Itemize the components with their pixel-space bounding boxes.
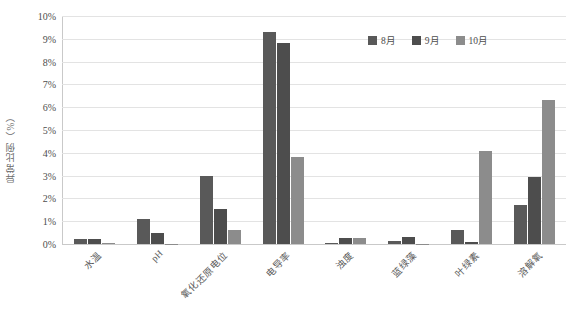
x-axis-tick: 氧化还原电位 xyxy=(189,246,252,316)
bar-group xyxy=(377,16,440,244)
y-axis-tick: 2% xyxy=(43,193,56,204)
bars xyxy=(63,16,126,244)
bar-group xyxy=(440,16,503,244)
bar[interactable] xyxy=(325,243,338,244)
bar[interactable] xyxy=(479,151,492,244)
bar-group xyxy=(252,16,315,244)
x-axis-tick: 溶解氧 xyxy=(504,246,567,316)
bar[interactable] xyxy=(74,239,87,244)
x-axis-tick-label: 蓝绿藻 xyxy=(388,248,420,280)
bars xyxy=(126,16,189,244)
y-axis-tick: 4% xyxy=(43,147,56,158)
x-axis-tick-label: 水温 xyxy=(80,248,104,272)
bar-group xyxy=(126,16,189,244)
x-axis-tick-label: 浊度 xyxy=(332,248,356,272)
bar[interactable] xyxy=(388,241,401,244)
bar[interactable] xyxy=(88,239,101,244)
gridline xyxy=(62,244,566,245)
bars xyxy=(440,16,503,244)
bar[interactable] xyxy=(277,43,290,244)
bar[interactable] xyxy=(214,209,227,244)
bars xyxy=(503,16,566,244)
bar[interactable] xyxy=(528,177,541,244)
y-axis-tick: 8% xyxy=(43,56,56,67)
bar[interactable] xyxy=(102,243,115,244)
bar[interactable] xyxy=(228,230,241,244)
y-axis-tick: 0% xyxy=(43,239,56,250)
bar[interactable] xyxy=(137,219,150,244)
y-axis-tick: 1% xyxy=(43,216,56,227)
bar[interactable] xyxy=(402,237,415,244)
bar-group xyxy=(63,16,126,244)
bar-group xyxy=(503,16,566,244)
bar[interactable] xyxy=(465,242,478,244)
y-axis-title: 异常比例（%） xyxy=(2,72,20,222)
bars xyxy=(315,16,378,244)
bar[interactable] xyxy=(451,230,464,244)
x-axis-tick-label: 溶解氧 xyxy=(514,248,546,280)
x-axis-tick: pH xyxy=(126,246,189,316)
legend-label: 10月 xyxy=(469,33,489,47)
y-axis-tick: 3% xyxy=(43,170,56,181)
bar-chart: 异常比例（%） 10%9%8%7%6%5%4%3%2%1%0% 8月9月10月 … xyxy=(0,0,580,317)
x-axis-tick-label: pH xyxy=(149,248,165,264)
bar[interactable] xyxy=(263,32,276,244)
bars xyxy=(252,16,315,244)
bar[interactable] xyxy=(339,238,352,244)
x-axis-tick: 蓝绿藻 xyxy=(378,246,441,316)
plot-area xyxy=(62,16,566,244)
x-axis-tick: 叶绿素 xyxy=(441,246,504,316)
legend-item[interactable]: 10月 xyxy=(456,33,489,47)
bar[interactable] xyxy=(353,238,366,244)
x-axis-tick: 浊度 xyxy=(315,246,378,316)
x-axis-tick-labels: 水温pH氧化还原电位电导率浊度蓝绿藻叶绿素溶解氧 xyxy=(63,246,567,316)
y-axis-tick: 7% xyxy=(43,79,56,90)
x-axis-tick-label: 电导率 xyxy=(262,248,294,280)
legend: 8月9月10月 xyxy=(368,33,488,47)
bar[interactable] xyxy=(151,233,164,244)
y-axis-tick: 9% xyxy=(43,33,56,44)
y-axis-tick: 6% xyxy=(43,102,56,113)
y-axis-tick-labels: 10%9%8%7%6%5%4%3%2%1%0% xyxy=(22,16,58,244)
y-axis-tick: 10% xyxy=(38,11,56,22)
bars xyxy=(189,16,252,244)
bar[interactable] xyxy=(200,176,213,244)
legend-item[interactable]: 9月 xyxy=(412,33,440,47)
bar-group xyxy=(189,16,252,244)
legend-swatch-icon xyxy=(456,36,465,45)
bars xyxy=(377,16,440,244)
legend-label: 9月 xyxy=(425,33,440,47)
bar[interactable] xyxy=(291,157,304,244)
bar[interactable] xyxy=(542,100,555,244)
legend-swatch-icon xyxy=(368,36,377,45)
x-axis-tick: 电导率 xyxy=(252,246,315,316)
bar[interactable] xyxy=(514,205,527,244)
y-axis-tick: 5% xyxy=(43,125,56,136)
legend-label: 8月 xyxy=(381,33,396,47)
legend-swatch-icon xyxy=(412,36,421,45)
bar-groups xyxy=(63,16,566,244)
bar-group xyxy=(315,16,378,244)
legend-item[interactable]: 8月 xyxy=(368,33,396,47)
x-axis-tick-label: 叶绿素 xyxy=(451,248,483,280)
x-axis-tick: 水温 xyxy=(63,246,126,316)
